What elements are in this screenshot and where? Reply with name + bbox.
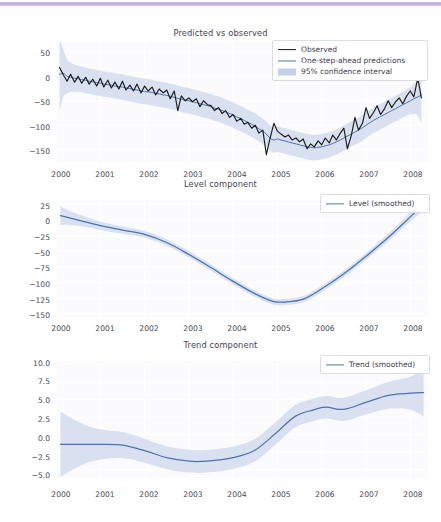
ytick-label: −100: [18, 280, 50, 289]
legend-item-confidence-interval[interactable]: 95% confidence interval: [278, 66, 421, 77]
xtick-label: 2005: [271, 170, 290, 179]
legend-line-swatch-observed: [278, 45, 296, 54]
legend-level-component[interactable]: Level (smoothed): [320, 194, 430, 213]
xtick-label: 2001: [95, 324, 114, 333]
panel-title-trend-component: Trend component: [0, 340, 441, 350]
xtick-label: 2008: [403, 170, 422, 179]
xtick-label: 2007: [359, 490, 378, 499]
matplotlib-figure: Predicted vs observed 50 0 −50 −100 −150…: [0, 0, 441, 522]
xtick-label: 2003: [183, 170, 202, 179]
plot-canvas-level-component: [56, 200, 428, 317]
legend-label: 95% confidence interval: [301, 66, 392, 77]
ytick-label: −25: [18, 232, 50, 241]
legend-line-swatch-trend: [326, 360, 344, 369]
ytick-label: −50: [18, 98, 50, 107]
legend-line-swatch-level: [326, 199, 344, 208]
legend-label: One-step-ahead predictions: [301, 55, 405, 66]
legend-predicted-vs-observed[interactable]: Observed One-step-ahead predictions 95% …: [272, 40, 428, 81]
xtick-label: 2006: [315, 324, 334, 333]
xtick-label: 2007: [359, 170, 378, 179]
xtick-label: 2000: [51, 324, 70, 333]
ytick-label: −50: [18, 248, 50, 257]
xtick-label: 2003: [183, 490, 202, 499]
plot-canvas-trend-component: [56, 361, 428, 478]
ytick-label: −5.0: [14, 471, 50, 480]
xtick-label: 2000: [51, 490, 70, 499]
xtick-label: 2005: [271, 324, 290, 333]
xtick-label: 2003: [183, 324, 202, 333]
xtick-label: 2008: [403, 490, 422, 499]
ytick-label: −75: [18, 264, 50, 273]
ytick-label: 7.5: [14, 377, 50, 386]
legend-item-one-step-ahead-predictions[interactable]: One-step-ahead predictions: [278, 55, 421, 66]
legend-item-trend-smoothed[interactable]: Trend (smoothed): [326, 359, 423, 370]
ytick-label: 0: [18, 73, 50, 82]
ytick-label: 10.0: [14, 358, 50, 367]
panel-title-predicted-vs-observed: Predicted vs observed: [0, 28, 441, 38]
legend-item-level-smoothed[interactable]: Level (smoothed): [326, 198, 423, 209]
legend-label: Trend (smoothed): [349, 359, 415, 370]
panel-title-level-component: Level component: [0, 179, 441, 189]
legend-item-observed[interactable]: Observed: [278, 44, 421, 55]
legend-label: Level (smoothed): [349, 198, 415, 209]
xtick-label: 2004: [227, 490, 246, 499]
ytick-label: 5.0: [14, 396, 50, 405]
panel-level-component: Level component 25 0 −25 −50 −75 −100 −1…: [0, 180, 441, 340]
legend-line-swatch-predictions: [278, 56, 296, 65]
panel-trend-component: Trend component 10.0 7.5 5.0 2.5 0.0 −2.…: [0, 340, 441, 522]
ytick-label: 50: [18, 49, 50, 58]
legend-trend-component[interactable]: Trend (smoothed): [320, 355, 430, 374]
xtick-label: 2000: [51, 170, 70, 179]
legend-label: Observed: [301, 44, 337, 55]
axes-trend-component: [56, 361, 428, 478]
xtick-label: 2004: [227, 170, 246, 179]
ytick-label: 25: [18, 201, 50, 210]
panel-predicted-vs-observed: Predicted vs observed 50 0 −50 −100 −150…: [0, 0, 441, 180]
xtick-label: 2001: [95, 170, 114, 179]
xtick-label: 2004: [227, 324, 246, 333]
xtick-label: 2008: [403, 324, 422, 333]
xtick-label: 2001: [95, 490, 114, 499]
ytick-label: 0: [18, 217, 50, 226]
ytick-label: 0.0: [14, 433, 50, 442]
xtick-label: 2006: [315, 170, 334, 179]
xtick-label: 2005: [271, 490, 290, 499]
ytick-label: −125: [18, 295, 50, 304]
xtick-label: 2002: [139, 170, 158, 179]
ytick-label: 2.5: [14, 414, 50, 423]
legend-band-swatch-confidence: [278, 67, 296, 76]
axes-level-component: [56, 200, 428, 317]
xtick-label: 2002: [139, 324, 158, 333]
ytick-label: −150: [18, 147, 50, 156]
ytick-label: −100: [18, 122, 50, 131]
xtick-label: 2007: [359, 324, 378, 333]
ytick-label: −2.5: [14, 452, 50, 461]
ytick-label: −150: [18, 311, 50, 320]
xtick-label: 2002: [139, 490, 158, 499]
xtick-label: 2006: [315, 490, 334, 499]
